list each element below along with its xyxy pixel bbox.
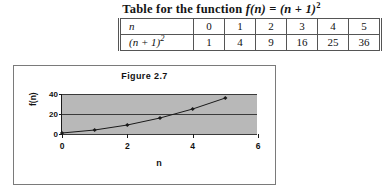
y-tick-label: 0 — [54, 130, 58, 139]
series-f-of-n — [62, 94, 258, 134]
table-cell: 36 — [349, 35, 381, 51]
caption-formula-exponent: 2 — [316, 0, 320, 10]
row-header-fn-exponent: 2 — [160, 33, 164, 43]
caption-formula-equals: = — [269, 2, 276, 16]
table-row: n 0 1 2 3 4 5 — [120, 19, 381, 35]
x-tick-label: 6 — [256, 141, 261, 151]
data-point-marker — [158, 116, 162, 120]
table-cell: 1 — [194, 35, 225, 51]
function-value-table: n 0 1 2 3 4 5 (n + 1)2 1 4 9 16 25 36 — [118, 18, 382, 51]
data-point-marker — [223, 96, 227, 100]
table-row: (n + 1)2 1 4 9 16 25 36 — [120, 35, 381, 51]
data-point-marker — [93, 128, 97, 132]
x-tick-label: 0 — [60, 141, 65, 151]
caption-prefix: Table for the function — [122, 2, 242, 16]
table-cell: 0 — [194, 19, 225, 35]
table-cell: 2 — [256, 19, 287, 35]
x-tick-label: 4 — [190, 141, 195, 151]
x-tickmark — [127, 134, 128, 138]
table-cell: 5 — [349, 19, 381, 35]
x-tickmark — [193, 134, 194, 138]
caption-formula-rhs: (n + 1) — [280, 2, 316, 16]
table-cell: 4 — [225, 35, 256, 51]
plot-area: 40 20 0 0 2 4 6 — [61, 94, 257, 134]
table-caption: Table for the function f(n) = (n + 1)2 — [0, 0, 389, 17]
x-tickmark — [258, 134, 259, 138]
series-line — [62, 98, 225, 133]
chart-frame: Figure 2.7 f(n) 40 20 0 0 2 4 6 n — [13, 65, 276, 185]
y-tick-label: 20 — [49, 110, 58, 119]
series-markers — [60, 96, 228, 135]
table-cell: 3 — [287, 19, 318, 35]
data-point-marker — [191, 107, 195, 111]
table-cell: 16 — [287, 35, 318, 51]
y-tick-label: 40 — [49, 90, 58, 99]
chart-title: Figure 2.7 — [14, 71, 275, 81]
row-header-fn: (n + 1)2 — [120, 35, 194, 51]
table-cell: 4 — [318, 19, 349, 35]
table-cell: 1 — [225, 19, 256, 35]
x-axis-label: n — [61, 158, 257, 168]
gridline-0 — [62, 134, 257, 135]
caption-formula-arg: (n) — [250, 2, 266, 16]
table-cell: 25 — [318, 35, 349, 51]
data-point-marker — [125, 123, 129, 127]
table-block: Table for the function f(n) = (n + 1)2 n… — [0, 0, 389, 17]
row-header-fn-base: (n + 1) — [129, 36, 160, 48]
row-header-n: n — [120, 19, 194, 35]
y-axis-label: f(n) — [28, 92, 38, 106]
table-cell: 9 — [256, 35, 287, 51]
x-tick-label: 2 — [125, 141, 130, 151]
